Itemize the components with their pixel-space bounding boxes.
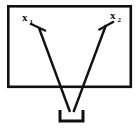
diagram-root: x 1 x 2 bbox=[0, 0, 140, 130]
label-x1-subscript: 1 bbox=[30, 18, 34, 26]
label-x1-base: x bbox=[22, 11, 28, 23]
label-x2-base: x bbox=[110, 9, 116, 21]
diagram-canvas: x 1 x 2 bbox=[0, 0, 140, 130]
label-x2-subscript: 2 bbox=[118, 16, 122, 24]
